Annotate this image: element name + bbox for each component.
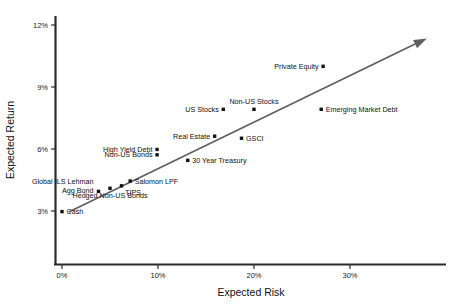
data-point-label: TIPS: [125, 188, 141, 197]
y-tick-label: 6%: [37, 145, 48, 154]
data-point-marker: [128, 179, 131, 182]
data-point-marker: [321, 65, 324, 68]
data-point-label: Cash: [67, 207, 84, 216]
data-point: Cash: [60, 207, 83, 216]
data-point: Salomon LPF: [128, 177, 178, 186]
data-point: Real Estate: [173, 132, 216, 141]
data-point: US Stocks: [185, 105, 225, 114]
risk-return-scatter-chart: 3%6%9%12% 0%10%20%30% CashGlobal ILS Leh…: [0, 0, 453, 307]
data-point-marker: [213, 134, 216, 137]
x-axis-title: Expected Risk: [217, 286, 285, 298]
data-point: 30 Year Treasury: [186, 156, 247, 165]
y-tick-label: 3%: [37, 207, 48, 216]
y-tick-label: 12%: [33, 21, 48, 30]
data-point-marker: [155, 148, 158, 151]
y-axis-title: Expected Return: [4, 101, 16, 179]
data-point: GSCI: [240, 134, 264, 143]
data-point-marker: [186, 159, 189, 162]
data-point: Emerging Market Debt: [320, 105, 398, 114]
data-point: High Yield Debt: [103, 145, 159, 154]
data-point-label: Salomon LPF: [135, 177, 179, 186]
data-point-marker: [120, 184, 123, 187]
y-tick-label: 9%: [37, 83, 48, 92]
data-point-marker: [320, 108, 323, 111]
plot-area: 3%6%9%12% 0%10%20%30% CashGlobal ILS Leh…: [0, 0, 453, 307]
data-point: Private Equity: [274, 62, 325, 71]
data-point-label: High Yield Debt: [103, 145, 153, 154]
x-tick-label: 10%: [150, 271, 165, 280]
data-point-marker: [252, 108, 255, 111]
x-tick-label: 20%: [246, 271, 261, 280]
data-point-marker: [108, 187, 111, 190]
x-tick-label: 0%: [57, 271, 68, 280]
data-point-marker: [60, 210, 63, 213]
data-point-label: Real Estate: [173, 132, 210, 141]
data-point-label: Non-US Stocks: [229, 97, 279, 106]
data-point-marker: [155, 153, 158, 156]
data-point-label: 30 Year Treasury: [192, 156, 247, 165]
data-point: Non-US Stocks: [229, 97, 279, 111]
data-point-marker: [222, 108, 225, 111]
y-axis-ticks: 3%6%9%12%: [33, 21, 56, 216]
data-points-group: CashGlobal ILS LehmanAgg BondHedged Non-…: [32, 62, 398, 216]
data-point-label: GSCI: [246, 134, 264, 143]
data-point-label: Private Equity: [274, 62, 319, 71]
data-point-label: US Stocks: [185, 105, 219, 114]
x-tick-label: 30%: [342, 271, 357, 280]
arrow-head-icon: [413, 38, 427, 48]
data-point-marker: [240, 137, 243, 140]
data-point-label: Emerging Market Debt: [326, 105, 398, 114]
x-axis-ticks: 0%10%20%30%: [57, 265, 358, 281]
